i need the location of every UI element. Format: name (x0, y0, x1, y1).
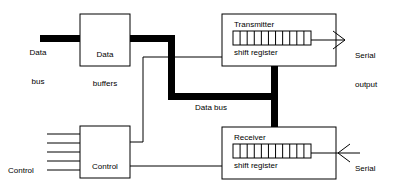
receiver-title: Receiver (234, 133, 266, 143)
data-bus-middle-label: Data bus (178, 103, 244, 113)
transmitter-title: Transmitter (234, 20, 274, 30)
shift-register-outline (233, 144, 311, 158)
control-unit-label-line1: Control (80, 162, 130, 172)
control-lines-label: Control lines (8, 147, 52, 186)
serial-output-label: Serial output (355, 32, 401, 108)
serial-output-label-line1: Serial (355, 51, 401, 61)
bus-segment-mid-horizontal (168, 93, 278, 100)
serial-input-label: Serial input (355, 145, 401, 186)
diagram-canvas (0, 0, 403, 186)
control-unit-label: Control unit (80, 143, 130, 186)
data-bus-input-label-line1: Data (18, 48, 58, 58)
uart-block-diagram: Data bus Data buffers Control unit Contr… (0, 0, 403, 186)
data-bus-input-label-line2: bus (18, 77, 58, 87)
bus-segment-transmitter-drop (271, 66, 278, 127)
receiver-shift-register (233, 144, 311, 158)
data-buffers-label-line2: buffers (80, 79, 130, 89)
serial-output-label-line2: output (355, 80, 401, 90)
receiver-subtitle: shift register (234, 161, 278, 171)
data-buffers-label: Data buffers (80, 31, 130, 107)
bus-segment-vertical-main (168, 35, 175, 100)
data-bus-input-label: Data bus (18, 29, 58, 105)
data-buffers-label-line1: Data (80, 50, 130, 60)
control-lines-label-line1: Control (8, 166, 52, 176)
transmitter-subtitle: shift register (234, 48, 278, 58)
shift-register-outline (233, 31, 311, 45)
serial-input-label-line1: Serial (355, 164, 401, 174)
transmitter-shift-register (233, 31, 311, 45)
